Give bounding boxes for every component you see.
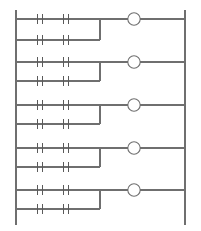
rung-4-coil-output-coil-icon[interactable] xyxy=(128,142,140,154)
rung-5 xyxy=(16,184,185,214)
rung-2 xyxy=(16,56,185,86)
ladder-diagram-canvas xyxy=(0,0,201,231)
rung-2-coil-output-coil-icon[interactable] xyxy=(128,56,140,68)
rung-1 xyxy=(16,13,185,45)
rung-3 xyxy=(16,99,185,129)
rung-4 xyxy=(16,142,185,172)
rung-3-coil-output-coil-icon[interactable] xyxy=(128,99,140,111)
rungs-group xyxy=(16,13,185,214)
rung-1-coil-output-coil-icon[interactable] xyxy=(128,13,140,25)
rung-5-coil-output-coil-icon[interactable] xyxy=(128,184,140,196)
ladder-logic-diagram xyxy=(0,0,201,231)
